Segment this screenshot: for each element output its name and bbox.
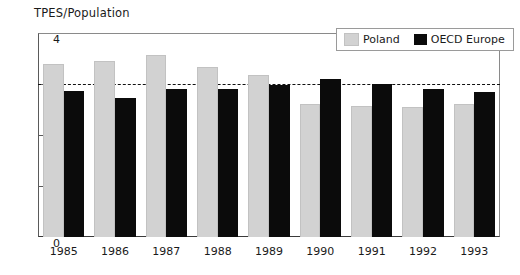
bar-poland-1986	[94, 61, 115, 237]
bar-poland-1988	[197, 67, 218, 237]
chart-legend: Poland OECD Europe	[336, 28, 514, 51]
bar-oecd-europe-1993	[474, 92, 495, 237]
legend-item-oecd-europe: OECD Europe	[414, 33, 505, 46]
bar-poland-1993	[454, 104, 475, 237]
x-tick-label-1987: 1987	[152, 245, 180, 258]
x-tick-label-1993: 1993	[460, 245, 488, 258]
legend-swatch-icon-poland	[344, 33, 359, 46]
x-tick-label-1986: 1986	[101, 245, 129, 258]
bar-oecd-europe-1992	[423, 89, 444, 237]
legend-label-oecd-europe: OECD Europe	[431, 33, 505, 46]
bar-oecd-europe-1987	[166, 89, 187, 237]
bar-poland-1989	[248, 75, 269, 237]
chart-figure: TPES/Population 01234 198519861987198819…	[0, 0, 520, 275]
bar-oecd-europe-1990	[320, 79, 341, 237]
x-tick-label-1992: 1992	[409, 245, 437, 258]
bar-poland-1987	[146, 55, 167, 237]
x-tick-label-1985: 1985	[50, 245, 78, 258]
bar-poland-1985	[43, 64, 64, 237]
bar-oecd-europe-1991	[372, 84, 393, 237]
bar-oecd-europe-1986	[115, 98, 136, 237]
x-tick-label-1989: 1989	[255, 245, 283, 258]
bar-series-layer	[38, 33, 500, 237]
chart-title: TPES/Population	[34, 6, 130, 20]
bar-oecd-europe-1985	[64, 91, 85, 237]
x-tick-label-1991: 1991	[358, 245, 386, 258]
bar-poland-1992	[402, 107, 423, 237]
x-tick-label-1988: 1988	[204, 245, 232, 258]
bar-oecd-europe-1988	[218, 89, 239, 237]
x-tick-label-1990: 1990	[306, 245, 334, 258]
legend-swatch-icon-oecd-europe	[414, 34, 427, 45]
legend-item-poland: Poland	[344, 33, 400, 46]
legend-label-poland: Poland	[363, 33, 400, 46]
bar-poland-1991	[351, 106, 372, 237]
bar-oecd-europe-1989	[269, 85, 290, 237]
bar-poland-1990	[300, 104, 321, 237]
